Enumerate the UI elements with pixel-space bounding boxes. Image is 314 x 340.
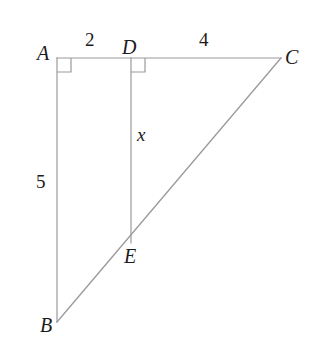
right-angle-marker-a xyxy=(57,58,71,72)
measure-label-dc: 4 xyxy=(199,30,209,49)
vertex-label-e: E xyxy=(124,246,136,266)
geometry-figure: A D C B E 2 4 5 x xyxy=(0,0,314,340)
right-angle-marker-d xyxy=(131,58,145,72)
vertex-label-a: A xyxy=(37,43,49,63)
measure-label-ab: 5 xyxy=(36,172,46,191)
vertex-label-d: D xyxy=(122,37,136,57)
segment-bc xyxy=(57,58,281,322)
measure-label-ad: 2 xyxy=(85,30,95,49)
measure-label-de: x xyxy=(137,125,145,144)
vertex-label-c: C xyxy=(285,47,298,67)
vertex-label-b: B xyxy=(40,315,52,335)
